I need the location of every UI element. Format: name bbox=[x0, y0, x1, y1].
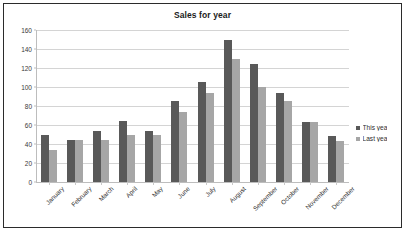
legend-label: This yea bbox=[363, 124, 388, 131]
bar-june-series-0[interactable] bbox=[171, 101, 179, 182]
bar-group bbox=[271, 30, 297, 182]
bar-group bbox=[219, 30, 245, 182]
bar-group bbox=[323, 30, 349, 182]
x-axis-tick-cell: July bbox=[192, 182, 218, 228]
x-tick-label-march: March bbox=[98, 185, 116, 203]
x-tick-label-june: June bbox=[177, 185, 192, 200]
y-tick-label-120: 120 bbox=[21, 65, 32, 72]
bar-december-series-0[interactable] bbox=[328, 136, 336, 182]
x-axis-tick-cell: February bbox=[62, 182, 88, 228]
bar-groups bbox=[36, 30, 349, 182]
x-axis-tick-cell: June bbox=[166, 182, 192, 228]
x-tick-label-april: April bbox=[125, 185, 139, 199]
x-tick-mark bbox=[284, 182, 285, 185]
x-axis-labels: JanuaryFebruaryMarchAprilMayJuneJulyAugu… bbox=[36, 182, 349, 228]
bar-october-series-1[interactable] bbox=[284, 101, 292, 182]
bar-group bbox=[36, 30, 62, 182]
x-tick-mark bbox=[127, 182, 128, 185]
legend-item-series-0[interactable]: This yea bbox=[356, 122, 402, 133]
bar-april-series-0[interactable] bbox=[119, 121, 127, 182]
x-axis-tick-cell: October bbox=[271, 182, 297, 228]
chart-legend: This yeaLast yea bbox=[356, 122, 402, 144]
y-tick-label-100: 100 bbox=[21, 84, 32, 91]
x-axis-tick-cell: November bbox=[297, 182, 323, 228]
x-axis-tick-cell: April bbox=[114, 182, 140, 228]
y-tick-label-60: 60 bbox=[25, 122, 32, 129]
x-tick-label-may: May bbox=[151, 185, 164, 198]
x-tick-mark bbox=[75, 182, 76, 185]
bar-august-series-0[interactable] bbox=[224, 40, 232, 183]
x-axis-tick-cell: May bbox=[140, 182, 166, 228]
bar-january-series-0[interactable] bbox=[41, 135, 49, 182]
bar-october-series-0[interactable] bbox=[276, 93, 284, 182]
y-tick-mark-160 bbox=[34, 30, 37, 31]
bar-march-series-1[interactable] bbox=[101, 140, 109, 182]
bar-january-series-1[interactable] bbox=[49, 150, 57, 182]
x-tick-mark bbox=[101, 182, 102, 185]
bar-july-series-1[interactable] bbox=[206, 93, 214, 182]
y-tick-mark-100 bbox=[34, 87, 37, 88]
y-tick-mark-20 bbox=[34, 163, 37, 164]
x-tick-mark bbox=[179, 182, 180, 185]
bar-september-series-1[interactable] bbox=[258, 87, 266, 182]
bar-august-series-1[interactable] bbox=[232, 59, 240, 182]
y-tick-label-0: 0 bbox=[28, 179, 32, 186]
bar-group bbox=[245, 30, 271, 182]
x-axis-tick-cell: August bbox=[219, 182, 245, 228]
bar-may-series-0[interactable] bbox=[145, 131, 153, 182]
x-tick-mark bbox=[336, 182, 337, 185]
x-tick-label-december: December bbox=[330, 185, 356, 211]
bar-group bbox=[114, 30, 140, 182]
bar-april-series-1[interactable] bbox=[127, 135, 135, 182]
x-tick-mark bbox=[232, 182, 233, 185]
x-axis-tick-cell: January bbox=[36, 182, 62, 228]
legend-item-series-1[interactable]: Last yea bbox=[356, 133, 402, 144]
bar-june-series-1[interactable] bbox=[179, 112, 187, 182]
x-tick-label-august: August bbox=[227, 185, 246, 204]
bar-november-series-0[interactable] bbox=[302, 122, 310, 182]
x-tick-mark bbox=[153, 182, 154, 185]
x-axis-tick-cell: December bbox=[323, 182, 349, 228]
y-tick-label-140: 140 bbox=[21, 46, 32, 53]
bar-july-series-0[interactable] bbox=[198, 82, 206, 182]
y-tick-mark-40 bbox=[34, 144, 37, 145]
bar-may-series-1[interactable] bbox=[153, 135, 161, 182]
y-tick-mark-80 bbox=[34, 106, 37, 107]
bar-group bbox=[297, 30, 323, 182]
sales-bar-chart: Sales for year 160140120100806040200 Jan… bbox=[4, 4, 401, 227]
bar-march-series-0[interactable] bbox=[93, 131, 101, 182]
chart-frame: Sales for year 160140120100806040200 Jan… bbox=[3, 3, 402, 228]
chart-title: Sales for year bbox=[4, 10, 401, 20]
bar-group bbox=[192, 30, 218, 182]
y-tick-label-80: 80 bbox=[25, 103, 32, 110]
bar-november-series-1[interactable] bbox=[310, 122, 318, 182]
bar-february-series-1[interactable] bbox=[75, 140, 83, 182]
x-axis-tick-cell: September bbox=[245, 182, 271, 228]
bar-february-series-0[interactable] bbox=[67, 140, 75, 182]
bar-group bbox=[62, 30, 88, 182]
x-axis-tick-cell: March bbox=[88, 182, 114, 228]
bar-group bbox=[140, 30, 166, 182]
y-tick-label-40: 40 bbox=[25, 141, 32, 148]
x-tick-mark bbox=[49, 182, 50, 185]
x-tick-label-july: July bbox=[203, 185, 216, 198]
bar-group bbox=[88, 30, 114, 182]
y-tick-label-160: 160 bbox=[21, 27, 32, 34]
y-tick-mark-140 bbox=[34, 49, 37, 50]
x-tick-mark bbox=[258, 182, 259, 185]
y-tick-mark-60 bbox=[34, 125, 37, 126]
plot-area: 160140120100806040200 bbox=[36, 30, 349, 182]
bar-group bbox=[166, 30, 192, 182]
y-tick-label-20: 20 bbox=[25, 160, 32, 167]
legend-swatch-icon bbox=[356, 126, 360, 130]
bar-september-series-0[interactable] bbox=[250, 64, 258, 182]
bar-december-series-1[interactable] bbox=[336, 141, 344, 182]
legend-label: Last yea bbox=[363, 135, 388, 142]
x-tick-mark bbox=[310, 182, 311, 185]
x-tick-mark bbox=[206, 182, 207, 185]
y-tick-mark-120 bbox=[34, 68, 37, 69]
legend-swatch-icon bbox=[356, 137, 360, 141]
